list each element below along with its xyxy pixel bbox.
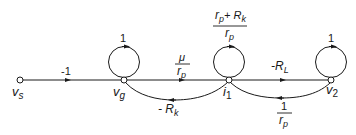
gain-loop-i1: rp+ Rk rp [213, 8, 247, 42]
gain-loop-v2: 1 [328, 32, 334, 44]
svg-text:rp: rp [177, 64, 186, 80]
node-i1 [226, 77, 232, 83]
svg-text:rp+ Rk: rp+ Rk [215, 8, 246, 24]
edge-v2-i1-arc [231, 83, 330, 98]
gain-loop-vg: 1 [120, 32, 126, 44]
node-vg [121, 77, 127, 83]
gain-v2-i1: 1 rp [277, 100, 292, 129]
node-vs [17, 77, 23, 83]
gain-i1-vg: - Rk [158, 102, 179, 118]
label-i1: i1 [223, 84, 232, 101]
gain-vg-i1: μ rp [175, 51, 190, 80]
gain-vs-vg: -1 [61, 65, 71, 77]
label-vs: vs [12, 84, 24, 101]
svg-text:μ: μ [178, 51, 185, 63]
gain-i1-v2: -RL [271, 59, 289, 75]
self-loop-v2 [316, 47, 347, 78]
edge-i1-vg-arc [126, 82, 229, 101]
label-v2: v2 [326, 82, 339, 99]
self-loop-i1 [214, 47, 245, 78]
signal-flow-graph: vs vg i1 v2 -1 1 μ rp rp+ Rk rp -RL 1 - … [0, 0, 356, 135]
label-vg: vg [113, 84, 126, 101]
self-loop-vg [109, 47, 140, 78]
svg-text:1: 1 [281, 100, 287, 112]
svg-text:rp: rp [225, 26, 234, 42]
svg-text:rp: rp [279, 113, 288, 129]
